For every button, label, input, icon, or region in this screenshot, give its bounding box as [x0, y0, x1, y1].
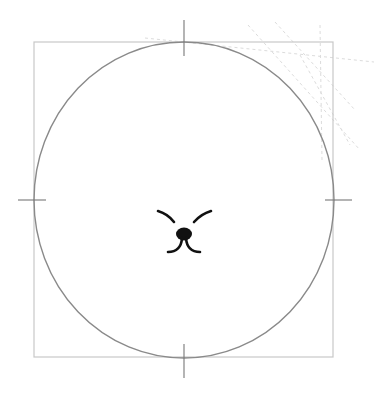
- left-eye-icon: [158, 211, 174, 222]
- main-circle[interactable]: [34, 42, 334, 358]
- cat-face-icon: [158, 211, 211, 252]
- nose-icon: [176, 228, 192, 241]
- right-eye-icon: [194, 211, 211, 222]
- drawing-canvas[interactable]: [0, 0, 374, 399]
- bounding-frame: [34, 42, 333, 357]
- crosshair-ticks: [18, 20, 352, 378]
